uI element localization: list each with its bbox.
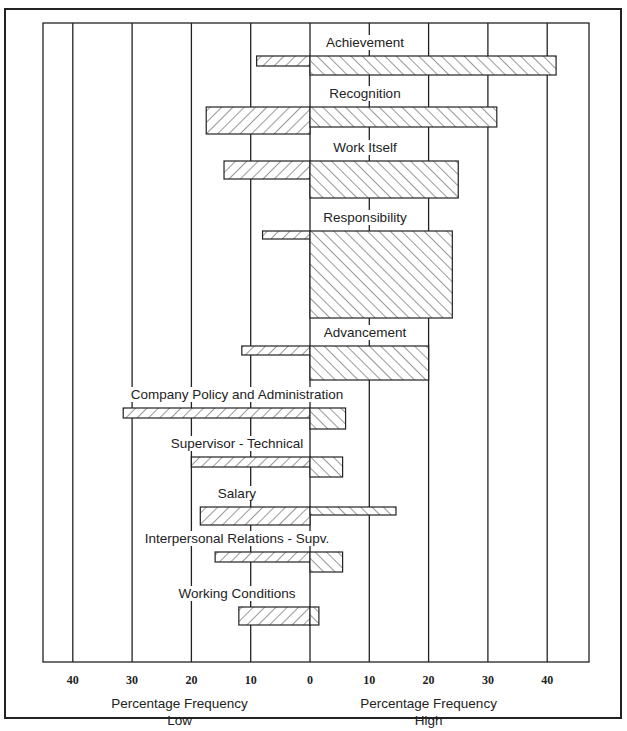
category-label: Achievement	[326, 35, 404, 50]
x-axis-label-high: Percentage Frequency	[360, 696, 497, 711]
bar-high	[310, 607, 319, 625]
category-label: Salary	[218, 486, 257, 501]
bar-low	[263, 231, 310, 239]
diverging-bar-chart: AchievementRecognitionWork ItselfRespons…	[0, 0, 627, 731]
category-label: Company Policy and Administration	[131, 387, 343, 402]
bar-low	[123, 408, 310, 418]
bar-low	[257, 56, 310, 66]
x-tick-label: 20	[185, 673, 197, 687]
bar-high	[310, 457, 343, 477]
bar-high	[310, 107, 497, 127]
category-label: Interpersonal Relations - Supv.	[145, 531, 329, 546]
bar-high	[310, 552, 343, 572]
x-tick-label: 10	[245, 673, 257, 687]
bar-low	[224, 161, 310, 179]
category-label: Work Itself	[333, 140, 397, 155]
category-label: Working Conditions	[179, 586, 296, 601]
bar-high	[310, 56, 556, 75]
x-axis-labels: Percentage FrequencyLowPercentage Freque…	[111, 696, 497, 728]
bar-low	[239, 607, 310, 625]
x-axis-label-low: Low	[167, 713, 192, 728]
x-tick-label: 30	[126, 673, 138, 687]
bar-high	[310, 408, 346, 429]
x-axis-label-high: High	[415, 713, 443, 728]
x-tick-label: 20	[423, 673, 435, 687]
bar-high	[310, 507, 396, 515]
x-tick-label: 0	[307, 673, 313, 687]
bar-low	[200, 507, 310, 525]
category-label: Advancement	[324, 325, 407, 340]
bar-high	[310, 346, 429, 380]
category-label: Supervisor - Technical	[171, 436, 304, 451]
x-tick-label: 10	[363, 673, 375, 687]
bar-low	[191, 457, 310, 467]
bar-high	[310, 161, 458, 198]
x-tick-label: 30	[482, 673, 494, 687]
bars: AchievementRecognitionWork ItselfRespons…	[123, 35, 556, 625]
bar-low	[215, 552, 310, 562]
category-label: Responsibility	[323, 210, 407, 225]
x-axis-label-low: Percentage Frequency	[111, 696, 248, 711]
x-tick-label: 40	[67, 673, 79, 687]
x-axis-ticks: 40302010010203040	[67, 673, 553, 687]
x-tick-label: 40	[541, 673, 553, 687]
bar-high	[310, 231, 452, 318]
bar-low	[206, 107, 310, 134]
category-label: Recognition	[329, 86, 400, 101]
bar-low	[242, 346, 310, 355]
